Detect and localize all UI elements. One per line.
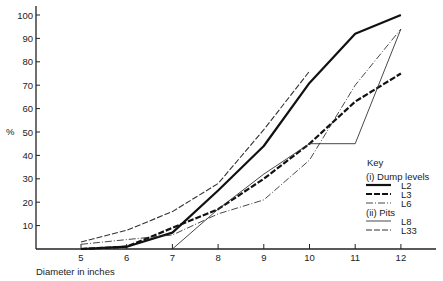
y-tick-label: 90 — [22, 33, 33, 44]
legend-label-l6: L6 — [401, 198, 412, 209]
series-line-l3 — [81, 74, 401, 250]
x-tick-label: 6 — [124, 252, 129, 263]
y-tick-label: 60 — [22, 103, 33, 114]
legend-title: Key — [367, 157, 384, 168]
x-axis-label: Diameter in inches — [36, 266, 115, 277]
legend: Key (i) Dump levels L2 L3 L6 (ii) Pits L… — [366, 157, 430, 236]
y-tick-label: 40 — [22, 150, 33, 161]
legend-group-dump-levels: (i) Dump levels — [366, 171, 430, 182]
legend-group-pits: (ii) Pits — [366, 207, 395, 218]
series-lines — [81, 15, 401, 249]
x-tick-label: 9 — [261, 252, 266, 263]
y-tick-label: 100 — [17, 10, 33, 21]
series-line-l6 — [81, 29, 401, 244]
x-tick-label: 10 — [304, 252, 315, 263]
y-tick-label: 80 — [22, 56, 33, 67]
x-tick-label: 11 — [350, 252, 360, 263]
series-line-l33 — [81, 71, 310, 242]
y-axis-label: % — [6, 126, 15, 137]
legend-label-l33: L33 — [401, 225, 417, 236]
y-tick-label: 20 — [22, 197, 33, 208]
y-tick-label: 70 — [22, 80, 33, 91]
x-tick-label: 7 — [170, 252, 175, 263]
series-line-l2 — [81, 15, 401, 249]
y-tick-label: 10 — [22, 220, 33, 231]
x-tick-label: 12 — [396, 252, 407, 263]
y-tick-label: 50 — [22, 127, 33, 138]
y-tick-label: 30 — [22, 173, 33, 184]
x-tick-label: 5 — [78, 252, 83, 263]
line-chart: 102030405060708090100 56789101112 % Diam… — [0, 0, 443, 281]
x-tick-label: 8 — [215, 252, 220, 263]
